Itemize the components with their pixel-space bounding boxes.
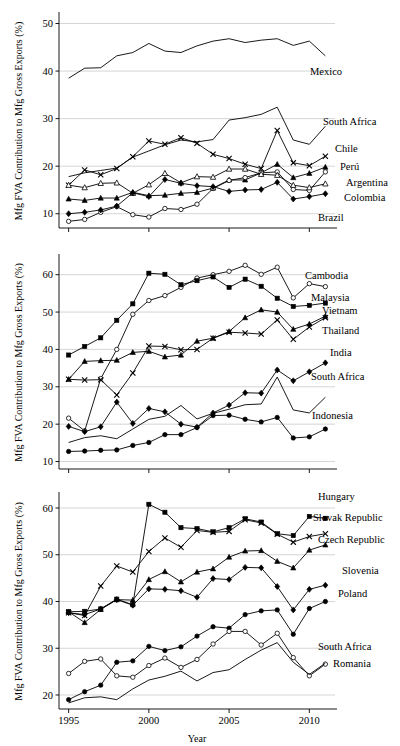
data-point-marker bbox=[275, 559, 280, 564]
data-point-marker bbox=[259, 272, 263, 276]
data-point-marker bbox=[67, 353, 71, 357]
data-point-marker bbox=[162, 569, 167, 574]
y-axis-title: Mfg FVA Contribution to Mfg Gross Export… bbox=[13, 263, 25, 461]
data-point-marker bbox=[163, 656, 167, 660]
data-point-marker bbox=[147, 663, 151, 667]
data-point-marker bbox=[211, 642, 215, 646]
data-point-marker bbox=[211, 275, 215, 279]
data-point-marker bbox=[147, 440, 151, 444]
data-point-marker bbox=[195, 279, 199, 283]
data-point-marker bbox=[243, 315, 248, 320]
panel-top: 1020304050Mfg FVA Contribution to Mfg Gr… bbox=[13, 12, 388, 232]
data-point-marker bbox=[291, 296, 295, 300]
y-tick-label: 40 bbox=[43, 66, 54, 77]
data-point-marker bbox=[259, 186, 264, 192]
data-point-marker bbox=[275, 415, 279, 419]
data-point-marker bbox=[82, 167, 87, 172]
series-line bbox=[69, 545, 326, 623]
series-line bbox=[69, 265, 326, 431]
data-point-marker bbox=[291, 655, 295, 659]
series-label-vietnam: Vietnam bbox=[322, 305, 358, 316]
series-line bbox=[69, 39, 326, 78]
data-point-marker bbox=[115, 448, 119, 452]
x-tick-label: 2010 bbox=[299, 715, 320, 726]
y-tick-label: 10 bbox=[43, 456, 54, 467]
data-point-marker bbox=[162, 409, 167, 415]
data-point-marker bbox=[243, 175, 247, 179]
x-tick-label: 2000 bbox=[138, 715, 159, 726]
series-label-cambodia: Cambodia bbox=[305, 270, 348, 281]
data-point-marker bbox=[323, 154, 328, 159]
data-point-marker bbox=[210, 152, 215, 157]
y-tick-label: 50 bbox=[43, 549, 54, 560]
series-line bbox=[69, 318, 326, 395]
data-point-marker bbox=[227, 629, 231, 633]
data-point-marker bbox=[66, 697, 70, 701]
data-point-marker bbox=[98, 172, 103, 177]
data-point-marker bbox=[323, 191, 328, 197]
data-point-marker bbox=[66, 449, 70, 453]
data-point-marker bbox=[147, 502, 151, 506]
series-label-malaysia: Malaysia bbox=[311, 292, 350, 303]
data-point-marker bbox=[131, 443, 135, 447]
data-point-marker bbox=[147, 271, 151, 275]
data-point-marker bbox=[323, 599, 327, 603]
data-point-marker bbox=[66, 416, 70, 420]
data-point-marker bbox=[227, 526, 231, 530]
data-point-marker bbox=[227, 402, 232, 408]
data-point-marker bbox=[243, 390, 248, 396]
data-point-marker bbox=[66, 219, 70, 223]
series-label-brazil: Brazil bbox=[318, 212, 344, 223]
y-tick-label: 50 bbox=[43, 307, 54, 318]
data-point-marker bbox=[178, 588, 183, 594]
data-point-marker bbox=[227, 285, 231, 289]
series-label-south-africa: South Africa bbox=[318, 641, 372, 652]
data-point-marker bbox=[179, 283, 183, 287]
data-point-marker bbox=[307, 303, 311, 307]
data-point-marker bbox=[115, 347, 119, 351]
data-point-marker bbox=[179, 526, 183, 530]
data-point-marker bbox=[275, 631, 279, 635]
data-point-marker bbox=[243, 417, 247, 421]
data-point-marker bbox=[259, 284, 263, 288]
series-line bbox=[69, 415, 326, 451]
data-point-marker bbox=[82, 209, 87, 215]
x-tick-label: 1995 bbox=[58, 715, 79, 726]
data-point-marker bbox=[227, 178, 231, 182]
data-point-marker bbox=[275, 317, 280, 322]
data-point-marker bbox=[307, 606, 311, 610]
y-tick-label: 30 bbox=[43, 113, 54, 124]
data-point-marker bbox=[323, 360, 328, 366]
figure-root: 1020304050Mfg FVA Contribution to Mfg Gr… bbox=[0, 0, 400, 746]
series-line bbox=[69, 310, 326, 380]
x-tick-label: 2005 bbox=[219, 715, 240, 726]
series-label-colombia: Colombia bbox=[344, 192, 386, 203]
data-point-marker bbox=[243, 629, 247, 633]
data-point-marker bbox=[275, 296, 279, 300]
data-point-marker bbox=[259, 609, 263, 613]
series-south-africa bbox=[66, 360, 328, 435]
data-point-marker bbox=[291, 337, 296, 342]
y-tick-label: 50 bbox=[43, 18, 54, 29]
data-point-marker bbox=[163, 648, 167, 652]
data-point-marker bbox=[131, 302, 135, 306]
y-tick-label: 40 bbox=[43, 344, 54, 355]
data-point-marker bbox=[275, 161, 280, 166]
data-point-marker bbox=[147, 298, 151, 302]
data-point-marker bbox=[275, 128, 280, 133]
data-point-marker bbox=[163, 293, 167, 297]
data-point-marker bbox=[178, 579, 183, 584]
data-point-marker bbox=[115, 674, 119, 678]
series-line bbox=[69, 602, 326, 700]
y-tick-label: 20 bbox=[43, 419, 54, 430]
data-point-marker bbox=[211, 625, 215, 629]
data-point-marker bbox=[178, 421, 183, 427]
data-point-marker bbox=[179, 207, 183, 211]
series-malaysia bbox=[67, 271, 328, 357]
y-tick-label: 20 bbox=[43, 690, 54, 701]
data-point-marker bbox=[146, 577, 151, 582]
data-point-marker bbox=[195, 202, 199, 206]
data-point-marker bbox=[243, 612, 247, 616]
data-point-marker bbox=[195, 657, 199, 661]
series-mexico bbox=[69, 39, 326, 78]
